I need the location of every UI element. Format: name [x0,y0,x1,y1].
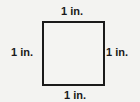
left-side-label: 1 in. [11,46,33,58]
square-shape [42,21,105,86]
right-side-label: 1 in. [106,46,128,58]
bottom-side-label: 1 in. [64,89,86,101]
top-side-label: 1 in. [61,5,83,17]
